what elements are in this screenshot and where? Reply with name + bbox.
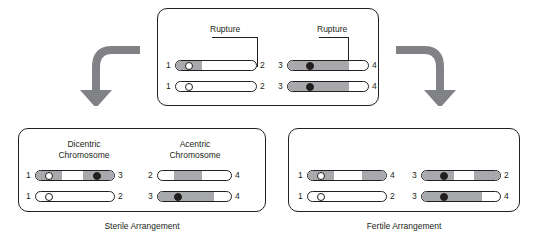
top-row1-chromosome-b bbox=[287, 60, 369, 71]
centromere-filled bbox=[174, 193, 182, 201]
left-row2-chromosome-a bbox=[35, 191, 115, 202]
left-row1-chromosome-b bbox=[157, 170, 232, 181]
rupture-label-right: Rupture bbox=[317, 24, 347, 34]
left-row2-a-left-number: 1 bbox=[26, 191, 31, 201]
acentric-heading-line2: Chromosome bbox=[165, 150, 225, 160]
right-row2-a-left-number: 1 bbox=[298, 191, 303, 201]
fertile-arrangement-caption: Fertile Arrangement bbox=[344, 221, 464, 231]
top-row1-left-number: 1 bbox=[166, 60, 171, 70]
dicentric-heading-line1: Dicentric bbox=[54, 139, 114, 149]
left-row2-a-right-number: 2 bbox=[118, 191, 123, 201]
centromere-filled bbox=[306, 62, 314, 70]
left-row1-a-right-number: 3 bbox=[118, 170, 123, 180]
centromere-open bbox=[45, 172, 53, 180]
segment-gray bbox=[422, 171, 454, 180]
right-row1-chromosome-a bbox=[307, 170, 387, 181]
dicentric-heading-line2: Chromosome bbox=[54, 150, 114, 160]
left-row1-b-right-number: 4 bbox=[235, 170, 240, 180]
right-row1-chromosome-b bbox=[421, 170, 501, 181]
top-row1-chromosome-a bbox=[175, 60, 257, 71]
left-row2-b-right-number: 4 bbox=[235, 191, 240, 201]
segment-gray bbox=[174, 171, 202, 180]
top-row1-right-number: 2 bbox=[260, 60, 265, 70]
left-row1-b-left-number: 2 bbox=[148, 170, 153, 180]
sterile-arrangement-caption: Sterile Arrangement bbox=[82, 221, 202, 231]
top-row2-left-number: 1 bbox=[166, 81, 171, 91]
segment-gray bbox=[288, 82, 349, 91]
acentric-heading-line1: Acentric bbox=[165, 139, 225, 149]
segment-gray-2 bbox=[474, 171, 501, 180]
arrow-left bbox=[78, 44, 148, 106]
arrow-right bbox=[388, 44, 458, 106]
segment-gray bbox=[422, 192, 482, 201]
segment-gray-2 bbox=[362, 171, 387, 180]
right-row1-b-right-number: 2 bbox=[504, 170, 509, 180]
rupture-leader-left-horizontal bbox=[212, 37, 258, 38]
centromere-filled bbox=[306, 83, 314, 91]
centromere-open bbox=[317, 172, 325, 180]
segment-gray bbox=[158, 192, 214, 201]
left-row1-chromosome-a bbox=[35, 170, 115, 181]
centromere-filled bbox=[440, 172, 448, 180]
centromere-open bbox=[185, 62, 193, 70]
top-row2-right-number-b: 4 bbox=[372, 81, 377, 91]
left-row2-b-left-number: 3 bbox=[148, 191, 153, 201]
centromere-open bbox=[185, 83, 193, 91]
segment-gray bbox=[288, 61, 349, 70]
right-row1-b-left-number: 3 bbox=[412, 170, 417, 180]
top-row2-left-number-b: 3 bbox=[278, 81, 283, 91]
centromere-filled bbox=[440, 193, 448, 201]
right-row2-b-right-number: 4 bbox=[504, 191, 509, 201]
top-row2-chromosome-a bbox=[175, 81, 257, 92]
rupture-leader-right-horizontal bbox=[319, 37, 349, 38]
right-row2-chromosome-b bbox=[421, 191, 501, 202]
right-row2-chromosome-a bbox=[307, 191, 387, 202]
left-row2-chromosome-b bbox=[157, 191, 232, 202]
centromere-filled bbox=[93, 172, 101, 180]
top-row2-right-number: 2 bbox=[260, 81, 265, 91]
rupture-label-left: Rupture bbox=[210, 24, 240, 34]
top-row1-right-number-b: 4 bbox=[372, 60, 377, 70]
centromere-open bbox=[45, 193, 53, 201]
top-row1-left-number-b: 3 bbox=[278, 60, 283, 70]
centromere-open bbox=[317, 193, 325, 201]
right-row2-a-right-number: 2 bbox=[390, 191, 395, 201]
top-row2-chromosome-b bbox=[287, 81, 369, 92]
right-row2-b-left-number: 3 bbox=[412, 191, 417, 201]
rupture-leader-left-vertical bbox=[257, 37, 258, 67]
right-row1-a-right-number: 4 bbox=[390, 170, 395, 180]
left-row1-a-left-number: 1 bbox=[26, 170, 31, 180]
right-row1-a-left-number: 1 bbox=[298, 170, 303, 180]
